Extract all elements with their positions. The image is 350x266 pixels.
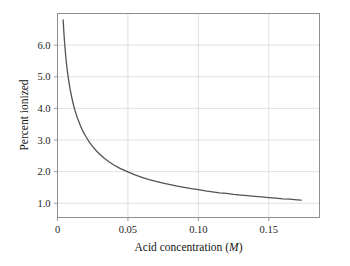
y-axis-title: Percent ionized xyxy=(18,79,30,150)
x-tick-label: 0 xyxy=(55,224,60,235)
figure-background xyxy=(0,0,350,266)
y-tick-label: 1.0 xyxy=(37,198,50,209)
y-tick-label: 3.0 xyxy=(37,135,50,146)
x-tick-label: 0.10 xyxy=(189,224,207,235)
y-tick-label: 2.0 xyxy=(37,166,50,177)
y-tick-label: 6.0 xyxy=(37,40,50,51)
x-axis-title-text: Acid concentration ( xyxy=(135,241,230,254)
x-tick-label: 0.05 xyxy=(119,224,137,235)
chart-plot-area: 00.050.100.15 1.02.03.04.05.06.0 Acid co… xyxy=(0,0,350,266)
y-tick-label: 5.0 xyxy=(37,71,50,82)
x-axis-title: Acid concentration (M) xyxy=(135,241,243,254)
chart-figure: 00.050.100.15 1.02.03.04.05.06.0 Acid co… xyxy=(0,0,350,266)
x-axis-title-paren: ) xyxy=(239,241,243,254)
x-tick-label: 0.15 xyxy=(260,224,278,235)
y-tick-label: 4.0 xyxy=(37,103,50,114)
